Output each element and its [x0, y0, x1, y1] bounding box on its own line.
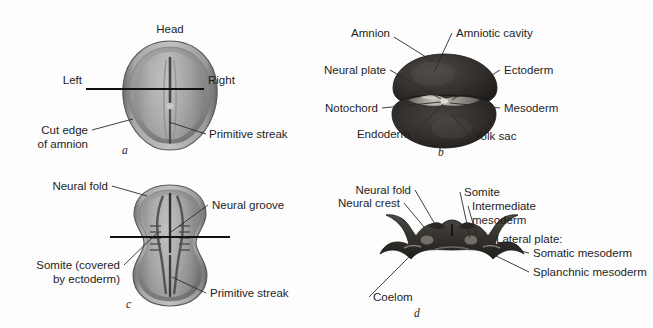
panel-d-label-neural-fold: Neural fold [355, 184, 411, 196]
panel-c-letter: c [126, 298, 131, 310]
panel-d-somite-right-cavity [465, 236, 478, 245]
panel-d-label-intermediate-mesoderm-line1: Intermediate [472, 200, 536, 212]
panel-d-label-splanchnic-mesoderm: Splanchnic mesoderm [533, 266, 647, 278]
panel-d-splanchnic-mesoderm-leader [486, 251, 529, 272]
panel-a-label-cut-edge-line1: Cut edge [41, 124, 88, 136]
panel-c-label-somite-line2: by ectoderm) [53, 273, 120, 285]
panel-b-notochord-dot [440, 98, 448, 103]
panel-a: Head Left Right Cut edge of amnion Primi… [37, 23, 287, 156]
panel-c-neural-fold-leader [112, 186, 147, 196]
panel-c-label-neural-fold: Neural fold [52, 180, 108, 192]
panel-d-label-somatic-mesoderm: Somatic mesoderm [533, 247, 632, 259]
panel-a-cut-edge-leader [92, 119, 133, 130]
panel-a-label-left: Left [63, 74, 83, 86]
panel-b-letter: b [438, 146, 444, 158]
panel-b-amnion-leader [394, 37, 434, 62]
panel-b: Amnion Amniotic cavity Neural plate Ecto… [324, 27, 558, 158]
panel-c: Neural fold Neural groove Somite (covere… [36, 180, 289, 310]
panel-b-label-ectoderm: Ectoderm [504, 64, 553, 76]
panel-d-letter: d [414, 307, 420, 319]
panel-d-label-lateral-plate-heading: Lateral plate: [496, 233, 563, 245]
panel-d-label-neural-crest: Neural crest [338, 197, 401, 209]
panel-b-label-mesoderm: Mesoderm [504, 102, 558, 114]
panel-b-upper-highlight [411, 62, 455, 86]
panel-b-label-notochord: Notochord [325, 102, 378, 114]
panel-d-label-intermediate-mesoderm-line2: mesoderm [472, 214, 526, 226]
panel-c-label-primitive-streak: Primitive streak [210, 287, 289, 299]
panel-b-lower-highlight [432, 117, 472, 139]
panel-a-label-right: Right [208, 74, 236, 86]
panel-c-label-neural-groove: Neural groove [212, 199, 284, 211]
panel-d-somite-left-cavity [421, 236, 434, 245]
panel-a-node [167, 103, 174, 109]
panel-b-label-amniotic-cavity: Amniotic cavity [456, 27, 533, 39]
panel-d-label-coelom: Coelom [373, 291, 413, 303]
panel-c-label-somite-line1: Somite (covered [36, 259, 120, 271]
panel-b-label-amnion: Amnion [351, 27, 390, 39]
panel-a-label-head: Head [156, 23, 184, 35]
panel-d-label-somite: Somite [464, 186, 500, 198]
embryology-figure: Head Left Right Cut edge of amnion Primi… [0, 0, 653, 328]
panel-b-label-neural-plate: Neural plate [324, 64, 386, 76]
panel-a-label-cut-edge-line2: of amnion [37, 138, 88, 150]
panel-b-label-endoderm: Endoderm [357, 128, 410, 140]
panel-b-label-yolk-sac: Yolk sac [474, 130, 517, 142]
panel-a-label-primitive-streak: Primitive streak [209, 128, 288, 140]
panel-a-letter: a [122, 144, 128, 156]
panel-d: Neural fold Neural crest Somite Intermed… [338, 184, 647, 319]
